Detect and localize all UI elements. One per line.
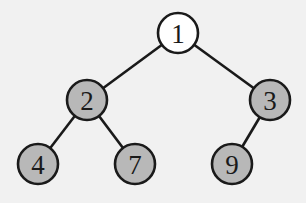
node-label: 7 (128, 150, 142, 180)
node-label: 1 (171, 19, 185, 49)
tree-node-7: 7 (115, 144, 155, 184)
node-label: 9 (225, 150, 239, 180)
tree-node-2: 2 (67, 80, 107, 120)
node-label: 4 (31, 150, 45, 180)
tree-node-9: 9 (212, 144, 252, 184)
tree-node-4: 4 (18, 144, 58, 184)
node-label: 3 (263, 86, 277, 116)
node-label: 2 (80, 86, 94, 116)
tree-graphic: 123479 (0, 0, 306, 203)
tree-nodes: 123479 (18, 13, 290, 184)
tree-node-3: 3 (250, 80, 290, 120)
binary-tree-diagram: 123479 (0, 0, 306, 203)
tree-node-1: 1 (158, 13, 198, 53)
